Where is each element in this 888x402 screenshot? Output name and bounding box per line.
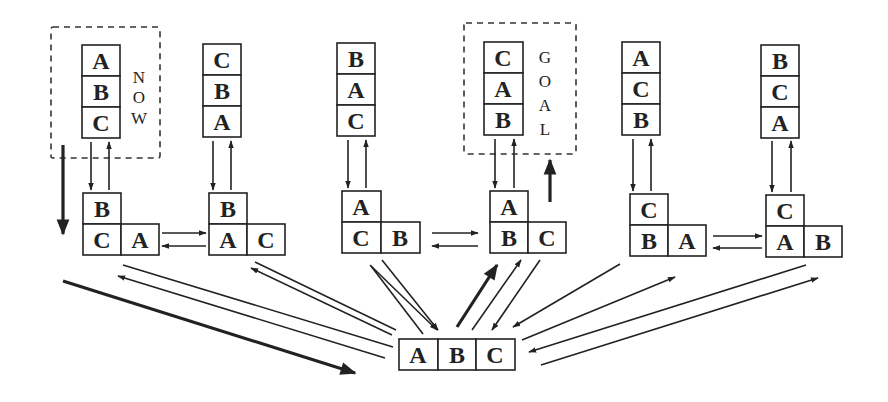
tower-acb: A C B	[622, 42, 660, 135]
blocks-world-diagram: N O W G O A L A B C C B A B A C C A B A …	[0, 0, 888, 402]
svg-text:C: C	[92, 110, 109, 136]
svg-text:C: C	[213, 47, 230, 73]
svg-text:A: A	[409, 342, 427, 368]
svg-text:C: C	[538, 225, 555, 251]
svg-text:C: C	[776, 198, 793, 224]
flat-abc: A B C	[399, 339, 515, 370]
svg-text:A: A	[494, 76, 512, 102]
svg-text:C: C	[771, 79, 788, 105]
svg-text:B: B	[772, 48, 788, 74]
svg-text:C: C	[257, 227, 274, 253]
pair-b-on-c-plus-a: B C A	[83, 193, 159, 255]
svg-text:C: C	[352, 225, 369, 251]
svg-text:B: B	[220, 196, 236, 222]
svg-text:B: B	[214, 78, 230, 104]
svg-text:A: A	[347, 77, 365, 103]
svg-text:O: O	[539, 72, 551, 91]
svg-text:A: A	[219, 227, 237, 253]
tower-now-abc: A B C	[82, 45, 120, 138]
svg-text:A: A	[678, 228, 696, 254]
svg-text:B: B	[641, 228, 657, 254]
tower-cba: C B A	[203, 44, 241, 137]
pair-c-on-a-plus-b: C A B	[766, 195, 842, 257]
pair-b-on-a-plus-c: B A C	[209, 193, 285, 255]
tower-bca: B C A	[761, 45, 799, 138]
svg-text:C: C	[347, 108, 364, 134]
svg-text:B: B	[633, 107, 649, 133]
goal-label: G O A L	[539, 48, 552, 139]
svg-text:W: W	[131, 109, 148, 128]
tower-goal-cab: C A B	[484, 42, 523, 135]
svg-text:A: A	[92, 48, 110, 74]
svg-text:O: O	[133, 88, 145, 107]
svg-text:A: A	[539, 96, 552, 115]
svg-text:A: A	[213, 109, 231, 135]
tower-pair-arrows	[91, 139, 791, 192]
svg-text:A: A	[352, 194, 370, 220]
svg-text:G: G	[539, 48, 551, 67]
pair-a-on-c-plus-b: A C B	[342, 191, 420, 253]
svg-text:C: C	[93, 227, 110, 253]
svg-text:B: B	[501, 225, 517, 251]
svg-text:C: C	[494, 45, 511, 71]
svg-text:C: C	[486, 342, 503, 368]
svg-text:B: B	[392, 225, 408, 251]
pair-a-on-b-plus-c: A B C	[490, 191, 566, 253]
svg-text:B: B	[94, 196, 110, 222]
svg-text:A: A	[632, 45, 650, 71]
svg-text:B: B	[348, 46, 364, 72]
svg-text:B: B	[449, 342, 465, 368]
svg-text:A: A	[776, 229, 794, 255]
svg-text:C: C	[632, 76, 649, 102]
svg-text:L: L	[540, 120, 550, 139]
svg-text:B: B	[815, 229, 831, 255]
svg-text:B: B	[495, 107, 511, 133]
svg-text:B: B	[93, 79, 109, 105]
pair-c-on-b-plus-a: C B A	[630, 194, 706, 256]
svg-text:N: N	[133, 68, 145, 87]
now-label: N O W	[131, 68, 148, 128]
svg-text:A: A	[771, 110, 789, 136]
tower-bac: B A C	[337, 43, 375, 136]
svg-text:C: C	[640, 197, 657, 223]
svg-text:A: A	[131, 227, 149, 253]
svg-text:A: A	[500, 194, 518, 220]
